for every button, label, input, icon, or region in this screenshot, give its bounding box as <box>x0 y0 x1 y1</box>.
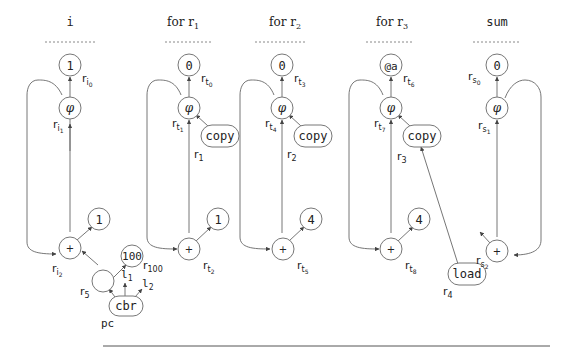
column-title-sum: sum <box>473 15 520 42</box>
svg-text:for r2: for r2 <box>269 15 301 31</box>
svg-text:+: + <box>66 243 74 254</box>
label-ri0: ri0 <box>82 72 93 88</box>
node-r1-inc: 1 <box>207 208 229 230</box>
svg-text:sum: sum <box>486 15 508 29</box>
node-i-init: 1 <box>59 54 81 76</box>
node-r3-inc: 4 <box>408 208 430 230</box>
svg-text:for r1: for r1 <box>167 15 199 31</box>
node-i-phi: φ <box>59 97 81 119</box>
node-r3-copy: copy <box>403 125 441 147</box>
svg-text:0: 0 <box>493 59 500 73</box>
svg-text:load: load <box>453 267 482 281</box>
node-sum-init: 0 <box>486 54 508 76</box>
label-rs0: rs0 <box>468 70 481 86</box>
node-r1-phi: φ <box>178 97 200 119</box>
svg-text:4: 4 <box>307 213 314 227</box>
label-ri1: ri1 <box>53 118 64 134</box>
node-r3-init: @a <box>380 54 402 76</box>
node-i-inc: 1 <box>88 208 110 230</box>
svg-text:φ: φ <box>185 101 194 115</box>
label-rt6: rt6 <box>403 72 415 88</box>
label-l2: l2 <box>142 277 154 292</box>
node-r1-init: 0 <box>178 54 200 76</box>
ssa-dataflow-diagram: i for r1 for r2 for r3 sum 1 <box>0 0 565 349</box>
svg-text:@a: @a <box>384 60 397 73</box>
column-title-for-r2: for r2 <box>255 15 305 42</box>
svg-text:1: 1 <box>214 213 221 227</box>
node-i-cbr: cbr <box>109 296 143 316</box>
column-for-r1: 0 φ copy + 1 rt0 rt1 r1 r100 rt2 <box>143 54 239 275</box>
node-r3-add: + <box>380 238 402 260</box>
svg-text:1: 1 <box>95 213 102 227</box>
label-rs1: rs1 <box>478 119 491 135</box>
svg-text:copy: copy <box>206 129 235 143</box>
label-ri2: ri2 <box>52 262 63 278</box>
svg-text:100: 100 <box>122 250 142 263</box>
column-title-i: i <box>45 15 95 42</box>
svg-text:i: i <box>66 15 73 29</box>
svg-text:+: + <box>279 244 287 255</box>
svg-text:φ: φ <box>387 101 396 115</box>
node-i-compare <box>92 270 114 292</box>
node-r2-phi: φ <box>271 97 293 119</box>
svg-text:for r3: for r3 <box>376 15 408 31</box>
svg-text:4: 4 <box>415 213 422 227</box>
node-r1-add: + <box>178 238 200 260</box>
svg-text:copy: copy <box>408 129 437 143</box>
column-for-r2: 0 φ copy + 4 rt3 rt4 r2 rt5 <box>240 54 332 275</box>
column-sum: 0 φ + rs0 rs1 rs2 <box>468 54 541 270</box>
svg-text:cbr: cbr <box>115 299 137 313</box>
node-i-add: + <box>59 237 81 259</box>
node-sum-phi: φ <box>486 97 508 119</box>
label-rt1: rt1 <box>172 117 184 133</box>
label-rt2: rt2 <box>203 259 215 275</box>
node-r2-add: + <box>272 238 294 260</box>
column-i: 1 φ + 1 100 cbr ri0 ri1 ri2 r5 l1 <box>27 54 154 330</box>
label-r3: r3 <box>397 150 407 165</box>
label-r1: r1 <box>194 148 204 163</box>
node-sum-add: + <box>486 240 508 262</box>
label-r4: r4 <box>443 285 453 300</box>
label-rt7: rt7 <box>374 117 386 133</box>
label-l1: l1 <box>121 268 133 283</box>
node-r2-copy: copy <box>294 125 332 147</box>
column-title-for-r1: for r1 <box>165 15 212 42</box>
svg-text:0: 0 <box>278 59 285 73</box>
label-rt4: rt4 <box>265 117 277 133</box>
node-r1-copy: copy <box>201 125 239 147</box>
svg-text:1: 1 <box>66 59 73 73</box>
svg-text:+: + <box>387 244 395 255</box>
column-for-r3: @a φ copy + 4 load rt6 rt7 r3 rt8 r4 <box>349 54 486 300</box>
svg-text:+: + <box>493 246 501 257</box>
label-r2: r2 <box>287 148 297 163</box>
node-i-limit: 100 <box>121 245 143 267</box>
label-r5: r5 <box>80 285 90 300</box>
label-rt5: rt5 <box>297 259 309 275</box>
label-r100: r100 <box>143 259 163 274</box>
node-r2-inc: 4 <box>300 208 322 230</box>
column-title-for-r3: for r3 <box>366 15 412 42</box>
svg-text:+: + <box>185 244 193 255</box>
label-rt0: rt0 <box>201 72 213 88</box>
label-rt3: rt3 <box>294 72 306 88</box>
svg-text:copy: copy <box>299 129 328 143</box>
label-rt8: rt8 <box>405 259 417 275</box>
svg-text:0: 0 <box>185 59 192 73</box>
label-pc: pc <box>101 317 114 330</box>
node-r3-phi: φ <box>380 97 402 119</box>
svg-text:φ: φ <box>278 101 287 115</box>
svg-text:φ: φ <box>66 101 75 115</box>
svg-text:φ: φ <box>493 101 502 115</box>
node-r2-init: 0 <box>271 54 293 76</box>
